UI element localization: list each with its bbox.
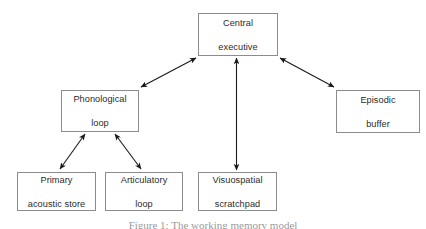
figure-canvas: Central executive Phonological loop Epis… bbox=[0, 0, 426, 229]
node-articulatory-loop: Articulatory loop bbox=[105, 172, 183, 211]
node-visuospatial-scratchpad: Visuospatial scratchpad bbox=[198, 172, 277, 211]
node-phonological-loop-line2: loop bbox=[71, 117, 128, 129]
node-primary-acoustic-store-line2: acoustic store bbox=[26, 198, 87, 210]
node-primary-acoustic-store-line1: Primary bbox=[26, 174, 87, 186]
edge-central-episodic bbox=[280, 58, 334, 87]
edge-phonological-primary bbox=[60, 134, 85, 169]
node-episodic-buffer: Episodic buffer bbox=[336, 90, 420, 133]
edge-phonological-articulatory bbox=[115, 134, 141, 169]
edge-central-phonological bbox=[141, 58, 196, 87]
node-episodic-buffer-line2: buffer bbox=[358, 118, 397, 130]
node-phonological-loop: Phonological loop bbox=[61, 90, 139, 132]
node-central-executive-line1: Central bbox=[216, 17, 259, 29]
node-visuospatial-scratchpad-line1: Visuospatial bbox=[211, 174, 265, 186]
node-episodic-buffer-line1: Episodic bbox=[358, 94, 397, 106]
node-primary-acoustic-store: Primary acoustic store bbox=[17, 172, 96, 211]
node-central-executive-line2: executive bbox=[216, 41, 259, 53]
figure-caption: Figure 1: The working memory model bbox=[0, 219, 426, 229]
node-visuospatial-scratchpad-line2: scratchpad bbox=[211, 198, 265, 210]
node-articulatory-loop-line1: Articulatory bbox=[119, 174, 170, 186]
node-phonological-loop-line1: Phonological bbox=[71, 93, 128, 105]
node-articulatory-loop-line2: loop bbox=[119, 198, 170, 210]
node-central-executive: Central executive bbox=[198, 13, 278, 56]
